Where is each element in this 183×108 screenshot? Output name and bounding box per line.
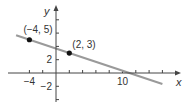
- point-label: (−4, 5): [23, 24, 52, 35]
- y-axis-arrow-icon: [54, 5, 59, 11]
- y-tick-label: −2: [41, 81, 53, 92]
- x-axis-arrow-icon: [175, 71, 181, 76]
- data-point: [27, 37, 32, 42]
- y-tick-label: 2: [46, 54, 52, 65]
- x-tick-label: −4: [24, 76, 36, 87]
- y-axis-label: y: [43, 5, 51, 17]
- x-axis-label: x: [175, 76, 182, 88]
- x-tick-label: 10: [117, 76, 129, 87]
- point-label: (2, 3): [72, 39, 95, 50]
- line-chart: x y −4102−2 (−4, 5)(2, 3): [0, 0, 183, 108]
- data-point: [67, 50, 72, 55]
